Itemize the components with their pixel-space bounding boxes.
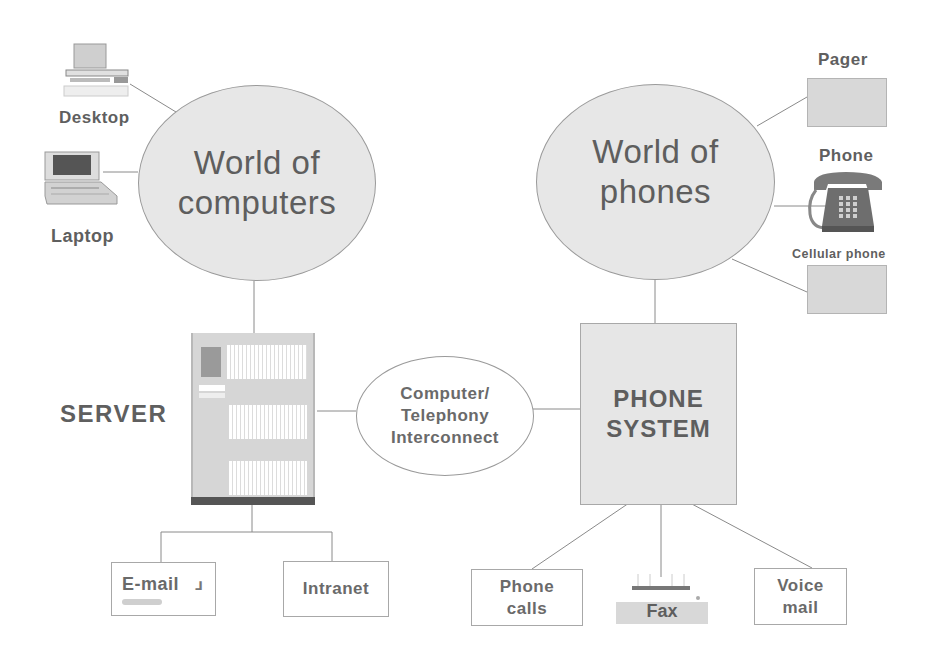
server-panel-bottom <box>229 461 307 495</box>
server-panel-top <box>227 345 307 379</box>
server-base <box>191 497 315 505</box>
phone-system-line-1: PHONE <box>613 384 703 414</box>
email-mark-icon: ⅃ <box>195 575 203 597</box>
server-panel-middle <box>229 405 307 439</box>
desktop-label: Desktop <box>59 108 130 128</box>
server-slot-icon <box>199 385 225 391</box>
email-label: E-mail <box>122 573 179 595</box>
voice-mail-line-1: Voice <box>777 575 824 597</box>
hub-line-2: computers <box>178 183 337 223</box>
phone-calls-line-2: calls <box>507 598 547 620</box>
phone-system-line-2: SYSTEM <box>606 414 711 444</box>
hub-line-1: World of <box>592 132 718 172</box>
email-box: E-mail ⅃ <box>111 562 216 616</box>
laptop-icon <box>43 150 119 208</box>
hub-line-2: phones <box>600 172 711 212</box>
fax-label: Fax <box>616 601 708 622</box>
server-slot-icon <box>199 393 225 398</box>
server-cabinet-icon <box>191 333 315 497</box>
interconnect-line-3: Interconnect <box>391 427 499 449</box>
cellular-phone-placeholder <box>807 265 887 314</box>
world-of-phones-hub: World of phones <box>536 84 775 280</box>
fax-machine-icon: Fax <box>616 572 708 624</box>
interconnect-line-1: Computer/ <box>400 383 490 405</box>
intranet-label: Intranet <box>303 578 369 600</box>
voice-mail-line-2: mail <box>782 597 818 619</box>
hub-line-1: World of <box>194 143 320 183</box>
pager-label: Pager <box>818 50 868 70</box>
phone-system-box: PHONE SYSTEM <box>580 323 737 505</box>
cellular-phone-label: Cellular phone <box>792 247 886 261</box>
phone-calls-box: Phone calls <box>471 569 583 626</box>
phone-label: Phone <box>819 146 873 166</box>
server-drive-icon <box>201 347 221 377</box>
laptop-label: Laptop <box>51 226 114 247</box>
computer-telephony-interconnect: Computer/ Telephony Interconnect <box>356 356 534 476</box>
voice-mail-box: Voice mail <box>754 568 847 625</box>
phone-calls-line-1: Phone <box>500 576 554 598</box>
email-icon <box>122 599 162 605</box>
server-label: SERVER <box>60 400 167 428</box>
pager-placeholder <box>807 78 887 127</box>
desk-telephone-icon <box>806 170 888 234</box>
world-of-computers-hub: World of computers <box>138 85 376 281</box>
desktop-computer-icon <box>62 42 132 100</box>
intranet-box: Intranet <box>283 561 389 617</box>
interconnect-line-2: Telephony <box>401 405 489 427</box>
